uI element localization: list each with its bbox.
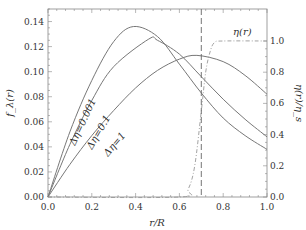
svg-text:1.0: 1.0	[270, 36, 285, 46]
svg-text:0.0: 0.0	[41, 202, 56, 212]
svg-text:0.04: 0.04	[24, 142, 44, 152]
svg-text:0.4: 0.4	[128, 202, 143, 212]
label-eta: η(r)	[233, 26, 252, 37]
svg-text:0.4: 0.4	[270, 130, 285, 140]
svg-text:1.0: 1.0	[260, 202, 275, 212]
y-axis-label: f_λ(r)	[4, 89, 16, 118]
svg-text:0.14: 0.14	[24, 17, 44, 27]
svg-text:0.8: 0.8	[216, 202, 231, 212]
svg-text:0.2: 0.2	[85, 202, 99, 212]
svg-text:0.8: 0.8	[270, 67, 285, 77]
label-deta-1: Δη=1	[100, 130, 127, 159]
svg-text:0.08: 0.08	[24, 92, 44, 102]
y-tick-labels: 0.000.020.040.060.080.100.120.14	[24, 17, 44, 202]
svg-text:0.02: 0.02	[24, 167, 44, 177]
svg-text:0.00: 0.00	[24, 192, 44, 202]
x-axis-label: r/R	[149, 217, 165, 228]
x-tick-labels: 0.00.20.40.60.81.0	[41, 202, 275, 212]
svg-text:0.2: 0.2	[270, 161, 284, 171]
y2-axis-label: η(r)/η_s	[293, 84, 305, 122]
svg-text:0.6: 0.6	[270, 98, 285, 108]
svg-text:0.0: 0.0	[270, 192, 285, 202]
svg-text:0.06: 0.06	[24, 117, 44, 127]
y2-tick-labels: 0.00.20.40.60.81.0	[270, 36, 285, 202]
svg-text:0.6: 0.6	[172, 202, 187, 212]
svg-text:0.10: 0.10	[24, 67, 44, 77]
chart: 0.00.20.40.60.81.0 0.000.020.040.060.080…	[0, 0, 306, 230]
svg-text:0.12: 0.12	[24, 42, 44, 52]
